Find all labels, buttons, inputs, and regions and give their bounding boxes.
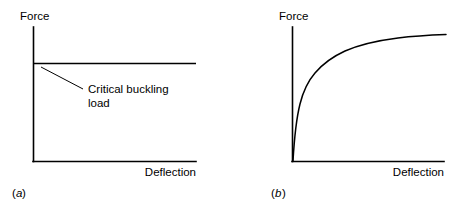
panel-a-y-axis-label: Force	[20, 10, 49, 22]
panel-b-caption: ( b )	[271, 187, 286, 199]
panel-a-x-axis-label: Deflection	[145, 166, 196, 178]
panel-b-caption-close-paren: )	[282, 187, 286, 199]
panel-b: Force Deflection ( b )	[271, 10, 446, 199]
panel-a-caption-close-paren: )	[22, 187, 26, 199]
panel-b-response-curve	[293, 35, 446, 161]
panel-a-annotation-line-1: Critical buckling	[88, 83, 169, 95]
panel-a-annotation-line-2: load	[88, 97, 110, 109]
panel-b-x-axis-label: Deflection	[393, 166, 444, 178]
panel-a-caption: ( a )	[12, 187, 26, 199]
panel-b-y-axis-label: Force	[279, 10, 308, 22]
figure-container: Force Deflection Critical buckling load …	[0, 0, 452, 204]
panel-a: Force Deflection Critical buckling load …	[12, 10, 196, 199]
panel-a-annotation-leader	[41, 67, 83, 89]
panel-b-caption-letter: b	[275, 187, 282, 199]
